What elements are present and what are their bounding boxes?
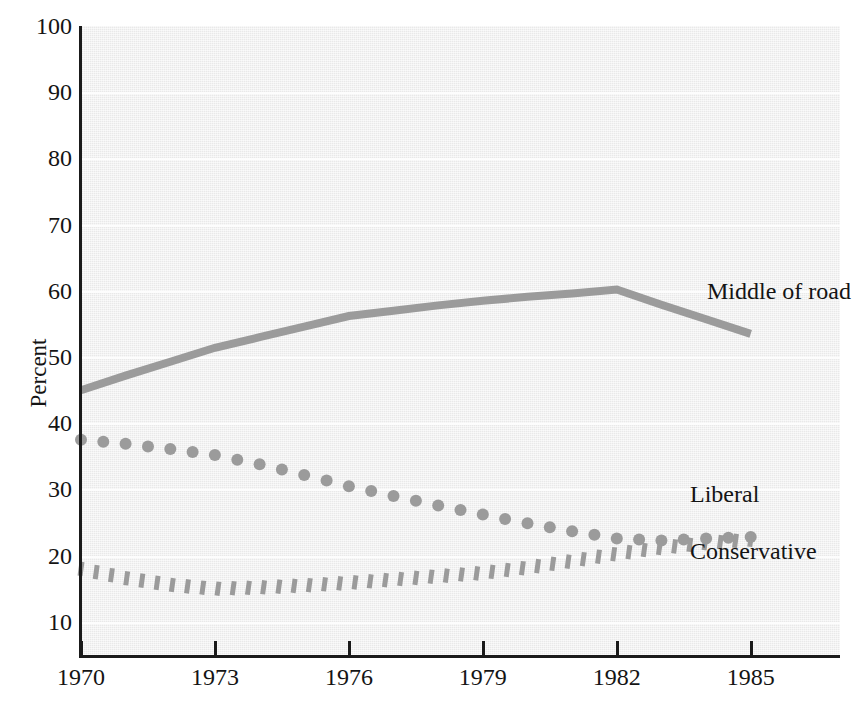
x-tick-label: 1976	[299, 664, 399, 691]
x-axis-line	[79, 655, 840, 658]
y-tick-label: 20	[12, 544, 72, 568]
x-tick-mark	[616, 641, 619, 655]
x-tick-label: 1982	[567, 664, 667, 691]
label-liberal: Liberal	[690, 481, 759, 508]
gridline	[81, 92, 840, 94]
y-tick-label: 10	[12, 610, 72, 634]
x-tick-mark	[348, 641, 351, 655]
gridline	[81, 357, 840, 359]
x-tick-label: 1979	[433, 664, 533, 691]
x-tick-label: 1985	[701, 664, 801, 691]
y-tick-label: 70	[12, 213, 72, 237]
x-tick-mark	[482, 641, 485, 655]
label-middle-of-road: Middle of road	[707, 278, 851, 305]
chart-figure: grouping by 102030405060708090100 197019…	[0, 0, 852, 719]
y-tick-label: 60	[12, 279, 72, 303]
y-tick-label: 100	[12, 14, 72, 38]
x-tick-mark	[750, 641, 753, 655]
x-tick-label: 1970	[31, 664, 131, 691]
x-tick-label: 1973	[165, 664, 265, 691]
x-tick-mark	[214, 641, 217, 655]
y-axis-line	[79, 26, 82, 657]
gridline	[81, 622, 840, 624]
gridline	[81, 158, 840, 160]
gridline	[81, 423, 840, 425]
y-tick-label: 90	[12, 80, 72, 104]
y-tick-label: 80	[12, 146, 72, 170]
gridline	[81, 225, 840, 227]
x-tick-mark	[80, 641, 83, 655]
label-conservative: Conservative	[690, 538, 817, 565]
y-tick-label: 30	[12, 477, 72, 501]
y-axis-title: Percent	[26, 313, 52, 433]
